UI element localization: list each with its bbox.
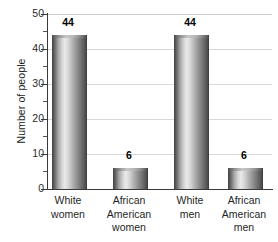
bar-african-american-men — [228, 168, 263, 189]
bar-chart: Number of people 50 40 30 20 10 0 — [0, 0, 278, 242]
cat-line: White — [34, 194, 102, 208]
bar-cap — [229, 168, 262, 171]
cat-line: African — [210, 194, 278, 208]
x-category-label-african-american-men: African American men — [210, 194, 278, 235]
value-label-african-american-women: 6 — [107, 150, 151, 161]
bar-cap — [175, 35, 208, 38]
cat-line: American — [95, 208, 163, 222]
bar-white-women — [52, 35, 87, 189]
bar-cap — [53, 35, 86, 38]
value-label-white-men: 44 — [168, 17, 212, 28]
cat-line: African — [95, 194, 163, 208]
bar-african-american-women — [113, 168, 148, 189]
x-category-label-african-american-women: African American women — [95, 194, 163, 235]
gridline-50 — [48, 14, 272, 15]
x-category-label-white-women: White women — [34, 194, 102, 221]
bar-white-men — [174, 35, 209, 189]
cat-line: men — [210, 221, 278, 235]
plot-area — [48, 14, 272, 189]
cat-line: women — [34, 208, 102, 222]
bar-cap — [114, 168, 147, 171]
value-label-white-women: 44 — [46, 17, 90, 28]
cat-line: American — [210, 208, 278, 222]
value-label-african-american-men: 6 — [222, 150, 266, 161]
cat-line: women — [95, 221, 163, 235]
